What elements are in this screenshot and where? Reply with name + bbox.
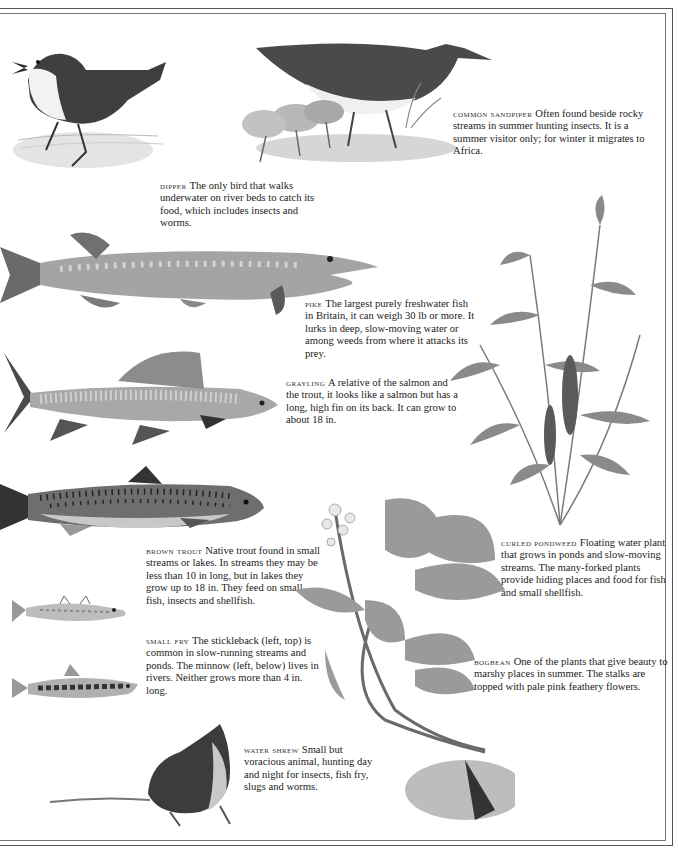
water-shrew-name: WATER SHREW [244, 744, 299, 755]
dipper-bird-icon [8, 40, 173, 190]
bogbean-caption: BOGBEANOne of the plants that give beaut… [474, 656, 674, 693]
grayling-fish-icon [0, 345, 285, 450]
shrew-icon [40, 722, 240, 832]
brown-trout-name: BROWN TROUT [146, 545, 202, 556]
pike-name: PIKE [305, 298, 322, 309]
sandpiper-name: COMMON SANDPIPER [453, 108, 532, 119]
grayling-caption: GRAYLINGA relative of the salmon and the… [286, 377, 461, 427]
sandpiper-caption: COMMON SANDPIPEROften found beside rocky… [453, 108, 663, 158]
grayling-name: GRAYLING [286, 377, 325, 388]
bogbean-name: BOGBEAN [474, 656, 511, 667]
dipper-name: DIPPER [160, 180, 187, 191]
stickleback-minnow-icon [10, 592, 145, 712]
curled-pondweed-caption: CURLED PONDWEEDFloating water plant that… [501, 537, 671, 599]
dipper-caption: DIPPERThe only bird that walks underwate… [160, 180, 330, 230]
trout-fish-icon [0, 462, 270, 542]
pondweed-plant-icon [440, 195, 670, 530]
small-fry-name: SMALL FRY [146, 635, 189, 646]
